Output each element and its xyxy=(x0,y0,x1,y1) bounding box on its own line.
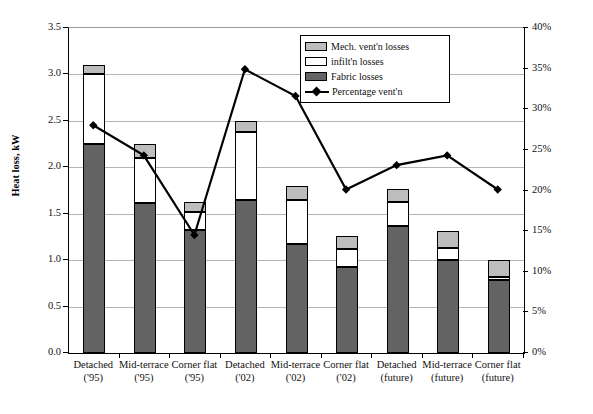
x-axis-category-label: Corner flat('95) xyxy=(169,358,220,384)
bar-segment-infiltration-losses[interactable] xyxy=(235,132,257,200)
y-axis-right-tick-label: 0% xyxy=(532,347,572,357)
legend-line-marker-icon xyxy=(305,86,329,97)
chart-legend: Mech. vent'n lossesinfilt'n lossesFabric… xyxy=(300,35,450,103)
bar-segment-infiltration-losses[interactable] xyxy=(437,248,459,260)
category-period: ('95) xyxy=(119,371,170,384)
y-axis-right-tick-label: 5% xyxy=(532,306,572,316)
legend-color-swatch xyxy=(305,57,327,66)
y-axis-left-tick-label: 3.5 xyxy=(21,22,61,32)
y-axis-left-tick-mark xyxy=(63,213,68,214)
y-axis-left-tick-label: 0.5 xyxy=(21,301,61,311)
y-axis-right-tick-mark xyxy=(523,230,528,231)
legend-item[interactable]: infilt'n losses xyxy=(305,54,445,69)
bar-stack[interactable] xyxy=(134,144,156,353)
category-period: ('02) xyxy=(321,371,372,384)
y-axis-right-tick-label: 25% xyxy=(532,144,572,154)
y-axis-left-tick-mark xyxy=(63,73,68,74)
category-name: Detached xyxy=(225,359,265,370)
plot-area xyxy=(68,27,525,354)
x-axis-category-label: Mid-terrace(future) xyxy=(422,358,473,384)
y-axis-left-tick-label: 3.0 xyxy=(21,68,61,78)
y-axis-left-tick-mark xyxy=(63,27,68,28)
y-axis-left-tick-label: 1.0 xyxy=(21,254,61,264)
category-period: ('02) xyxy=(220,371,271,384)
y-axis-left-tick-label: 2.0 xyxy=(21,161,61,171)
bar-segment-fabric-losses[interactable] xyxy=(184,230,206,353)
bar-stack[interactable] xyxy=(387,189,409,353)
gridline xyxy=(69,74,524,75)
y-axis-left-tick-label: 2.5 xyxy=(21,115,61,125)
x-axis-category-label: Mid-terrace('02) xyxy=(270,358,321,384)
y-axis-right-tick-label: 35% xyxy=(532,63,572,73)
y-axis-left-title: Heat loss, kW xyxy=(10,121,21,211)
y-axis-left-tick-mark xyxy=(63,306,68,307)
category-period: (future) xyxy=(371,371,422,384)
legend-label: Fabric losses xyxy=(331,71,383,82)
category-name: Mid-terrace xyxy=(422,359,472,370)
category-name: Corner flat xyxy=(475,359,521,370)
chart-figure: Heat loss, kW Percentage vent'n loss 0.0… xyxy=(0,0,593,414)
bar-segment-infiltration-losses[interactable] xyxy=(184,212,206,231)
y-axis-left-tick-mark xyxy=(63,120,68,121)
bar-stack[interactable] xyxy=(488,260,510,353)
bar-stack[interactable] xyxy=(437,231,459,353)
y-axis-left-tick-mark xyxy=(63,166,68,167)
legend-item[interactable]: Fabric losses xyxy=(305,69,445,84)
bar-segment-mech-ventn-losses[interactable] xyxy=(286,186,308,200)
bar-segment-fabric-losses[interactable] xyxy=(134,203,156,353)
category-name: Detached xyxy=(377,359,417,370)
y-axis-left-tick-mark xyxy=(63,259,68,260)
bar-segment-fabric-losses[interactable] xyxy=(83,144,105,353)
bar-segment-infiltration-losses[interactable] xyxy=(83,74,105,144)
y-axis-left-tick-label: 0.0 xyxy=(21,347,61,357)
bar-segment-fabric-losses[interactable] xyxy=(387,226,409,353)
bar-segment-infiltration-losses[interactable] xyxy=(387,202,409,226)
bar-segment-mech-ventn-losses[interactable] xyxy=(83,65,105,74)
legend-label: Mech. vent'n losses xyxy=(331,41,409,52)
bar-stack[interactable] xyxy=(184,202,206,353)
y-axis-right-tick-mark xyxy=(523,108,528,109)
legend-label: infilt'n losses xyxy=(331,56,384,67)
x-axis-category-label: Detached(future) xyxy=(371,358,422,384)
category-name: Corner flat xyxy=(171,359,217,370)
bar-segment-fabric-losses[interactable] xyxy=(235,200,257,353)
bar-segment-fabric-losses[interactable] xyxy=(286,244,308,353)
y-axis-right-tick-mark xyxy=(523,149,528,150)
category-name: Mid-terrace xyxy=(271,359,321,370)
x-axis-category-label: Corner flat('02) xyxy=(321,358,372,384)
x-axis-category-label: Detached('02) xyxy=(220,358,271,384)
bar-segment-mech-ventn-losses[interactable] xyxy=(235,121,257,132)
category-name: Mid-terrace xyxy=(119,359,169,370)
bar-segment-mech-ventn-losses[interactable] xyxy=(184,202,206,212)
bar-segment-mech-ventn-losses[interactable] xyxy=(437,231,459,248)
bar-segment-infiltration-losses[interactable] xyxy=(336,249,358,267)
bar-segment-mech-ventn-losses[interactable] xyxy=(336,236,358,249)
bar-segment-fabric-losses[interactable] xyxy=(437,260,459,353)
y-axis-left-tick-label: 1.5 xyxy=(21,208,61,218)
legend-color-swatch xyxy=(305,72,327,81)
legend-item[interactable]: Mech. vent'n losses xyxy=(305,39,445,54)
x-axis-category-label: Detached('95) xyxy=(68,358,119,384)
category-name: Corner flat xyxy=(323,359,369,370)
category-period: ('95) xyxy=(169,371,220,384)
legend-label: Percentage vent'n xyxy=(332,86,402,97)
y-axis-right-tick-label: 40% xyxy=(532,22,572,32)
bar-segment-infiltration-losses[interactable] xyxy=(134,158,156,204)
bar-segment-mech-ventn-losses[interactable] xyxy=(488,260,510,277)
bar-segment-fabric-losses[interactable] xyxy=(488,280,510,353)
legend-color-swatch xyxy=(305,42,327,51)
y-axis-right-tick-mark xyxy=(523,311,528,312)
y-axis-right-tick-label: 20% xyxy=(532,185,572,195)
bar-stack[interactable] xyxy=(336,236,358,353)
bar-segment-fabric-losses[interactable] xyxy=(336,267,358,353)
bar-stack[interactable] xyxy=(235,121,257,353)
bar-stack[interactable] xyxy=(286,186,308,353)
bar-segment-infiltration-losses[interactable] xyxy=(286,200,308,245)
y-axis-right-tick-mark xyxy=(523,68,528,69)
legend-item[interactable]: Percentage vent'n xyxy=(305,84,445,99)
bar-segment-mech-ventn-losses[interactable] xyxy=(387,189,409,202)
y-axis-right-tick-label: 30% xyxy=(532,103,572,113)
bar-segment-mech-ventn-losses[interactable] xyxy=(134,144,156,158)
y-axis-right-tick-mark xyxy=(523,190,528,191)
bar-stack[interactable] xyxy=(83,65,105,353)
